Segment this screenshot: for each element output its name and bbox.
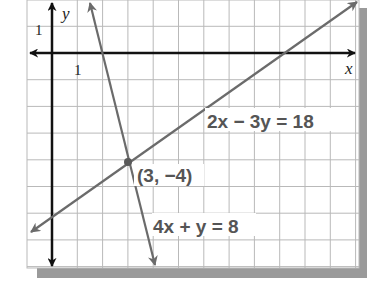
y-axis-label: y bbox=[60, 4, 70, 23]
intersection-point bbox=[124, 158, 132, 166]
coordinate-plane: y x 1 1 2x − 3y = 18 (3, −4) 4x + y = 8 bbox=[0, 0, 380, 288]
x-tick-label: 1 bbox=[74, 62, 82, 78]
equation-label-1: 2x − 3y = 18 bbox=[207, 111, 314, 132]
x-axis-label: x bbox=[344, 59, 353, 78]
equation-label-2: 4x + y = 8 bbox=[153, 216, 239, 237]
y-tick-label: 1 bbox=[35, 22, 43, 38]
intersection-label: (3, −4) bbox=[137, 165, 192, 186]
